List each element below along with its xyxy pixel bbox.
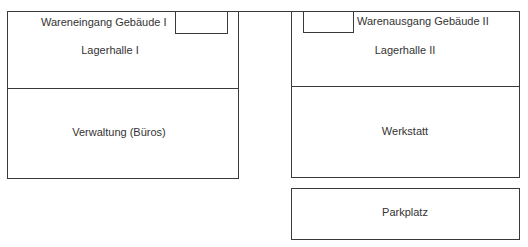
- building-2-exit-label: Warenausgang Gebäude II: [357, 15, 489, 27]
- building-1-divider: [7, 88, 239, 89]
- building-2-lower-room-label: Werkstatt: [382, 125, 428, 137]
- building-1-outline: [7, 11, 239, 179]
- building-2-outline: [291, 11, 520, 178]
- parking-label: Parkplatz: [382, 206, 428, 218]
- building-2-divider: [291, 86, 520, 87]
- building-2-upper-room-label: Lagerhalle II: [375, 44, 436, 56]
- building-2-exit-door: [303, 11, 354, 33]
- building-1-upper-room-label: Lagerhalle I: [81, 44, 139, 56]
- building-1-entrance-label: Wareneingang Gebäude I: [41, 16, 167, 28]
- building-1-lower-room-label: Verwaltung (Büros): [72, 126, 166, 138]
- building-1-entrance-door: [175, 11, 228, 34]
